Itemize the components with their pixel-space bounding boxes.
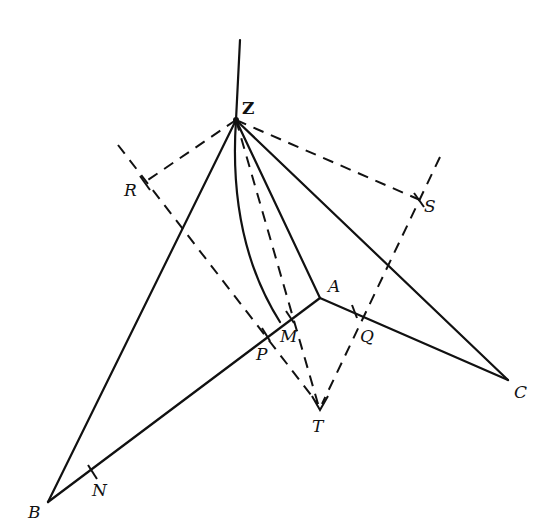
label-M: M <box>279 326 298 346</box>
line-ZA <box>236 120 320 298</box>
label-Z: Z <box>242 98 254 118</box>
label-B: B <box>27 502 41 522</box>
dashed-R-to-T <box>118 145 318 404</box>
label-T: T <box>312 416 325 436</box>
dashed-ZT <box>236 120 318 404</box>
label-P: P <box>255 344 268 364</box>
arc-ZM <box>235 120 280 322</box>
point-Z <box>233 117 239 123</box>
label-R: R <box>123 180 137 200</box>
label-Q: Q <box>360 326 374 346</box>
geometry-diagram: Z A B C T M P Q N R S <box>0 0 553 528</box>
dashed-ZR <box>145 120 236 182</box>
label-C: C <box>514 382 527 402</box>
label-S: S <box>424 196 436 216</box>
dashed-ZS <box>236 120 420 200</box>
line-AC <box>320 298 508 380</box>
zenith-line <box>236 40 240 120</box>
label-N: N <box>91 480 108 500</box>
label-A: A <box>326 276 340 296</box>
